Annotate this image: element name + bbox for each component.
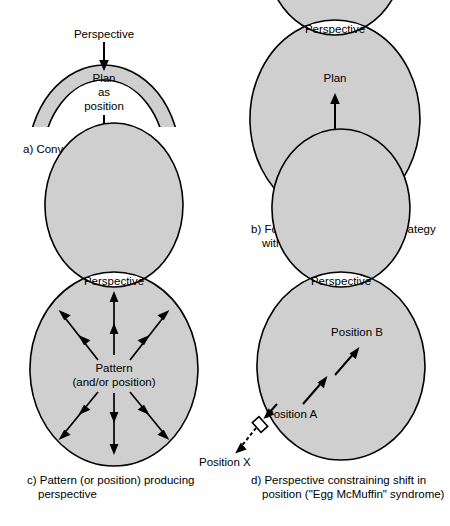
panel-d-ring-label: Perspective — [311, 275, 371, 287]
panel-c: Perspective Pattern (and/or position) — [27, 123, 198, 500]
panel-c-caption-line1: c) Pattern (or position) producing — [27, 474, 194, 486]
panel-d-label-position-b: Position B — [331, 326, 383, 338]
panel-d: Perspective Position B Position A Positi… — [199, 129, 445, 500]
panel-a-ring-label: Perspective — [74, 28, 134, 40]
panel-c-caption-line2: perspective — [38, 488, 97, 500]
figure-root: Perspective Plan as position a) Conventi… — [0, 0, 450, 526]
panel-c-label-pattern-sub: (and/or position) — [72, 376, 155, 388]
panel-b-ring-label: Perspective — [305, 23, 365, 35]
panel-a-label-position: position — [84, 100, 124, 112]
panel-a-label-plan: Plan — [92, 72, 115, 84]
panel-c-label-pattern: Pattern — [95, 362, 132, 374]
panel-a-label-as: as — [98, 86, 110, 98]
diagram-canvas: Perspective Plan as position a) Conventi… — [0, 0, 450, 526]
panel-d-caption-line2: position ("Egg McMuffin" syndrome) — [262, 488, 445, 500]
panel-c-ring-label: Perspective — [84, 275, 144, 287]
panel-d-caption-line1: d) Perspective constraining shift in — [251, 474, 426, 486]
panel-d-arrow-to-position-x — [235, 428, 256, 454]
panel-d-label-position-x: Position X — [199, 456, 251, 468]
panel-b-label-plan: Plan — [323, 72, 346, 84]
